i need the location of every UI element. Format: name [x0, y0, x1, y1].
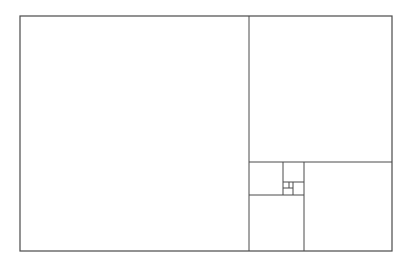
subdivision-lines: [249, 16, 392, 251]
outer-rectangle: [20, 16, 392, 251]
golden-rectangle-diagram: [0, 0, 413, 267]
